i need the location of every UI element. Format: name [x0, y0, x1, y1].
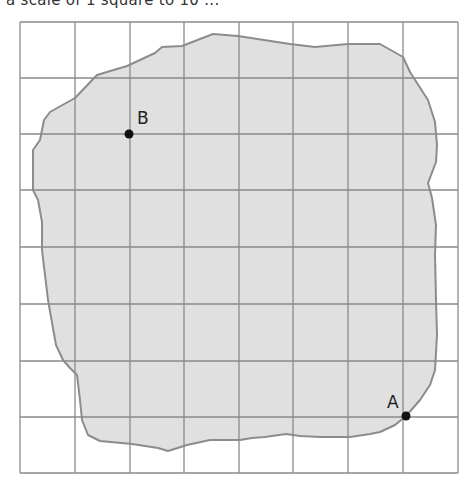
point-b-marker	[125, 130, 134, 139]
grid-diagram: B A	[0, 0, 476, 488]
point-a-marker	[402, 412, 411, 421]
point-a-label: A	[387, 392, 399, 412]
point-b-label: B	[137, 108, 149, 128]
irregular-region	[33, 34, 437, 451]
